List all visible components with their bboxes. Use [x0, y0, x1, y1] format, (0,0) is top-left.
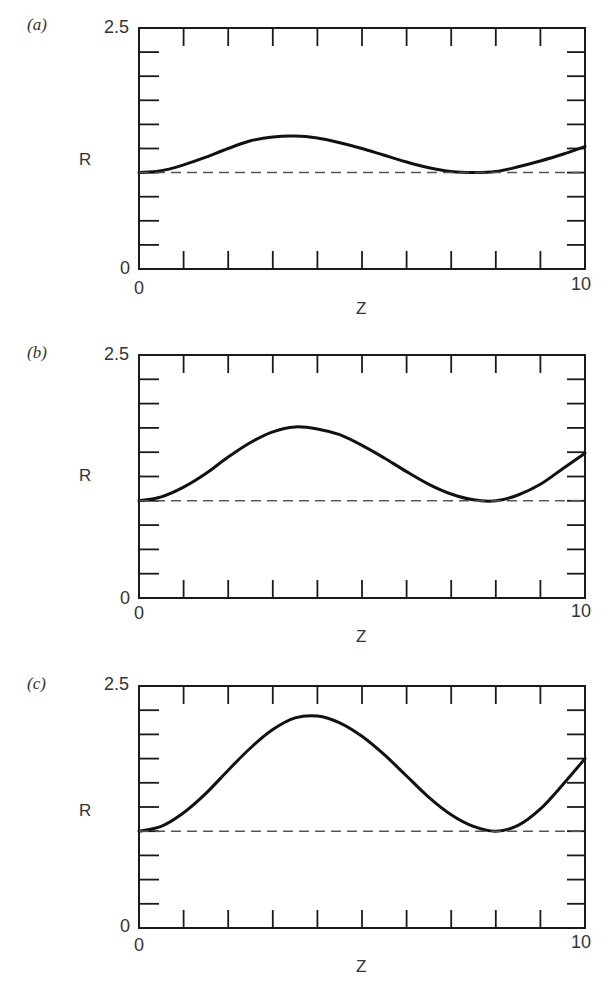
plot-area [0, 0, 616, 988]
panel-c: (c) 2.5 0 0 10 R Z [0, 0, 616, 988]
plot-frame [139, 686, 585, 928]
data-curve [139, 716, 585, 832]
